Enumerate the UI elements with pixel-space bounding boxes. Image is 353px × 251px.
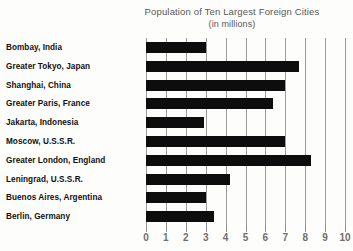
- bar: [146, 98, 273, 109]
- bar: [146, 211, 214, 222]
- bar: [146, 192, 206, 203]
- x-tick-label-1: 1: [163, 232, 169, 243]
- category-label: Berlin, Germany: [6, 210, 135, 223]
- category-label: Bombay, India: [6, 41, 135, 54]
- bar: [146, 136, 285, 147]
- x-tick-label-0: 0: [143, 232, 149, 243]
- x-tick-label-10: 10: [339, 232, 350, 243]
- category-label: Greater Paris, France: [6, 97, 135, 110]
- chart-title: Population of Ten Largest Foreign Cities: [118, 6, 346, 18]
- x-tick-label-6: 6: [263, 232, 269, 243]
- x-axis-labels: 012345678910: [146, 232, 345, 248]
- plot-area: [146, 38, 345, 226]
- x-tick-label-2: 2: [183, 232, 189, 243]
- bar-chart: Population of Ten Largest Foreign Cities…: [0, 0, 353, 251]
- gridline-9: [325, 38, 326, 226]
- category-label: Leningrad, U.S.S.R.: [6, 173, 135, 186]
- category-label: Moscow, U.S.S.R.: [6, 135, 135, 148]
- chart-title-block: Population of Ten Largest Foreign Cities…: [118, 6, 346, 30]
- gridline-10: [345, 38, 346, 226]
- bar: [146, 174, 230, 185]
- bar: [146, 61, 299, 72]
- category-label: Jakarta, Indonesia: [6, 116, 135, 129]
- x-tick-label-7: 7: [283, 232, 289, 243]
- x-tick-label-9: 9: [322, 232, 328, 243]
- x-tick-label-8: 8: [302, 232, 308, 243]
- bar: [146, 42, 206, 53]
- category-label: Buenos Aires, Argentina: [6, 191, 135, 204]
- category-labels: Bombay, IndiaGreater Tokyo, JapanShangha…: [0, 38, 143, 226]
- bar: [146, 117, 204, 128]
- bar: [146, 155, 311, 166]
- bar: [146, 80, 285, 91]
- category-label: Greater London, England: [6, 154, 135, 167]
- category-label: Greater Tokyo, Japan: [6, 60, 135, 73]
- gridline-8: [305, 38, 306, 226]
- chart-subtitle: (in millions): [118, 18, 346, 30]
- x-tick-label-4: 4: [223, 232, 229, 243]
- x-tick-label-5: 5: [243, 232, 249, 243]
- x-tick-label-3: 3: [203, 232, 209, 243]
- category-label: Shanghai, China: [6, 79, 135, 92]
